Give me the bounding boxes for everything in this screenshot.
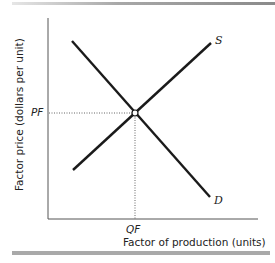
bottom-rule bbox=[12, 251, 270, 255]
equilibrium-point bbox=[132, 110, 138, 116]
y-tick-pf: PF bbox=[31, 106, 43, 118]
demand-label: D bbox=[214, 194, 223, 207]
supply-label: S bbox=[215, 34, 223, 47]
y-axis-label: Factor price (dollars per unit) bbox=[13, 38, 25, 191]
x-tick-qf: QF bbox=[126, 223, 140, 235]
x-axis-label: Factor of production (units) bbox=[123, 236, 266, 248]
supply-curve bbox=[73, 43, 211, 170]
